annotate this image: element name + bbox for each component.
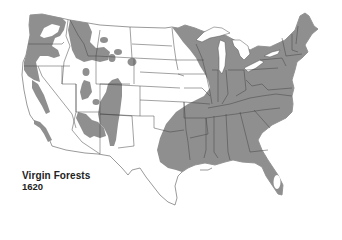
map-title: Virgin Forests [22,170,90,181]
gulf-coast-detail [200,168,212,170]
forest-patch [93,99,100,105]
forest-patch [128,58,137,66]
forest-patch [83,68,90,76]
everglades-gap [274,175,281,189]
map-caption: Virgin Forests 1620 [22,170,90,192]
forest-patch [100,37,108,43]
map-year: 1620 [22,181,90,192]
forest-patch [109,54,116,62]
forest-patch [114,49,122,55]
